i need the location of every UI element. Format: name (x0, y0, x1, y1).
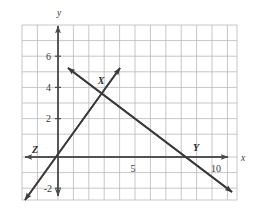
y-tick-label-minus-2: -2 (44, 183, 52, 194)
y-tick-label-2: 2 (46, 113, 51, 124)
x-axis-label: x (240, 153, 246, 163)
y-axis-label: y (56, 8, 62, 18)
coordinate-plane-svg: 6 4 2 -2 5 10 x y X Y Z (0, 0, 253, 222)
point-label-y: Y (193, 142, 200, 153)
y-tick-label-4: 4 (46, 82, 51, 93)
y-tick-label-6: 6 (46, 51, 51, 62)
x-tick-label-5: 5 (131, 163, 136, 174)
x-tick-label-10: 10 (211, 163, 221, 174)
point-label-z: Z (31, 144, 38, 155)
point-label-x: X (97, 75, 105, 86)
graph-figure: 6 4 2 -2 5 10 x y X Y Z (0, 0, 253, 222)
figure-background (0, 0, 253, 222)
